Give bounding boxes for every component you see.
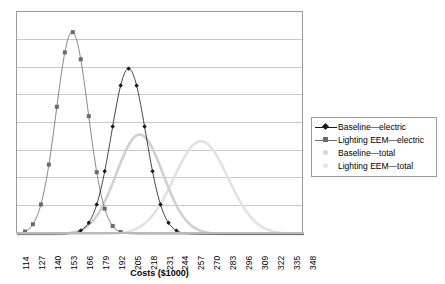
legend-item[interactable]: Lighting EEM—total bbox=[314, 160, 433, 173]
legend-item-label: Lighting EEM—total bbox=[338, 161, 413, 172]
legend-marker-icon bbox=[314, 122, 338, 133]
plot-area bbox=[16, 11, 303, 233]
x-tick-label: 218 bbox=[148, 236, 160, 270]
series-marker bbox=[110, 124, 114, 128]
x-tick-label: 127 bbox=[36, 236, 48, 270]
x-tick-label: 283 bbox=[227, 236, 239, 270]
legend-item-label: Baseline—electric bbox=[338, 122, 406, 133]
x-axis-title: Costs ($1000) bbox=[16, 268, 303, 278]
legend-marker-icon bbox=[314, 148, 338, 159]
series-marker bbox=[118, 83, 122, 87]
legend-item-label: Lighting EEM—electric bbox=[338, 135, 424, 146]
series-marker bbox=[142, 124, 146, 128]
x-tick-label: 114 bbox=[20, 236, 32, 270]
x-axis-tick-labels: 1141271401531661791922052182312442572702… bbox=[16, 236, 303, 270]
series-marker bbox=[95, 170, 99, 174]
series-marker bbox=[31, 222, 35, 226]
legend-item-label: Baseline—total bbox=[338, 148, 395, 159]
series-marker bbox=[39, 202, 43, 206]
x-tick-label: 348 bbox=[307, 236, 319, 270]
series-marker bbox=[126, 66, 130, 70]
series-marker bbox=[63, 50, 67, 54]
series-marker bbox=[103, 207, 107, 211]
x-tick-label: 335 bbox=[291, 236, 303, 270]
x-tick-label: 166 bbox=[84, 236, 96, 270]
series-line bbox=[17, 135, 304, 234]
chart-container: 1141271401531661791922052182312442572702… bbox=[0, 0, 445, 284]
chart-legend: Baseline—electric Lighting EEM—electric … bbox=[311, 117, 437, 177]
series-marker bbox=[47, 163, 51, 167]
legend-item[interactable]: Baseline—electric bbox=[314, 121, 433, 134]
series-canvas bbox=[17, 12, 304, 234]
x-tick-label: 244 bbox=[179, 236, 191, 270]
series-marker bbox=[111, 224, 115, 228]
x-tick-label: 205 bbox=[132, 236, 144, 270]
series-line bbox=[17, 69, 304, 234]
legend-marker-icon bbox=[314, 135, 338, 146]
x-tick-label: 231 bbox=[164, 236, 176, 270]
series-marker bbox=[79, 57, 83, 61]
series-marker bbox=[134, 83, 138, 87]
legend-item[interactable]: Baseline—total bbox=[314, 147, 433, 160]
series-marker bbox=[71, 30, 75, 34]
series-marker bbox=[87, 114, 91, 118]
x-tick-label: 140 bbox=[52, 236, 64, 270]
x-tick-label: 153 bbox=[68, 236, 80, 270]
x-tick-label: 270 bbox=[211, 236, 223, 270]
x-tick-label: 322 bbox=[275, 236, 287, 270]
legend-marker-icon bbox=[314, 161, 338, 172]
series-marker bbox=[150, 169, 154, 173]
series-line bbox=[17, 141, 304, 234]
x-tick-label: 192 bbox=[116, 236, 128, 270]
series-marker bbox=[95, 202, 99, 206]
series-marker bbox=[102, 169, 106, 173]
x-axis-line bbox=[16, 232, 304, 234]
legend-item[interactable]: Lighting EEM—electric bbox=[314, 134, 433, 147]
series-marker bbox=[55, 105, 59, 109]
x-tick-label: 257 bbox=[195, 236, 207, 270]
x-tick-label: 179 bbox=[100, 236, 112, 270]
x-tick-label: 309 bbox=[259, 236, 271, 270]
x-tick-label: 296 bbox=[243, 236, 255, 270]
